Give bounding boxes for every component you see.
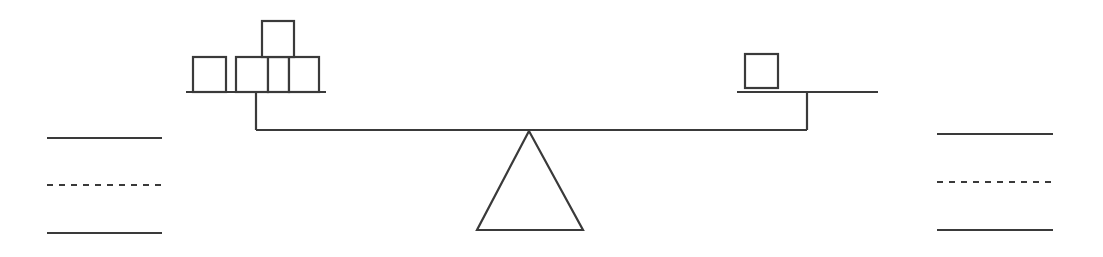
left-block-3 <box>268 57 289 92</box>
right-answer-lines <box>937 134 1053 230</box>
left-block-2 <box>236 57 268 92</box>
fulcrum-triangle-shape <box>477 131 583 230</box>
balance-scale-diagram <box>0 0 1103 257</box>
left-block-4 <box>289 57 319 92</box>
right-pan <box>737 54 878 130</box>
left-pan <box>186 21 326 130</box>
scene <box>0 0 1103 257</box>
fulcrum-triangle <box>477 131 583 230</box>
left-answer-lines <box>47 138 162 233</box>
left-block-5 <box>262 21 294 57</box>
right-block-1 <box>745 54 778 88</box>
left-block-1 <box>193 57 226 92</box>
